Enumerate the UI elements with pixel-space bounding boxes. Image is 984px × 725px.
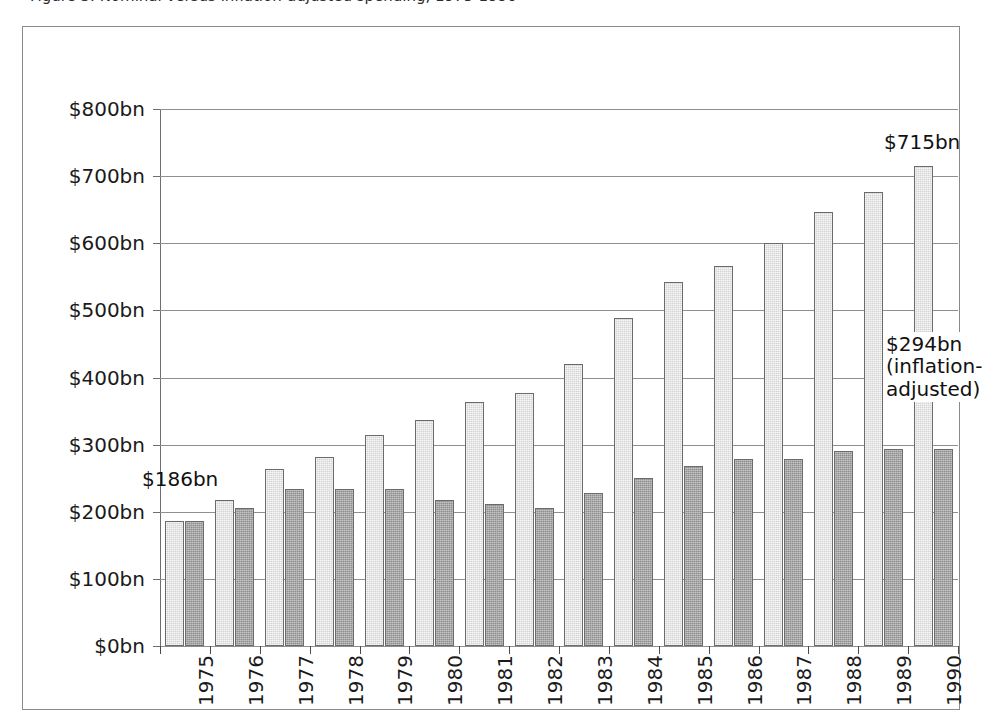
x-axis-tick-label-1982: 1982 bbox=[543, 655, 567, 706]
bar-1981-adjusted bbox=[485, 504, 504, 646]
bar-1980-nominal bbox=[415, 420, 434, 646]
bar-1990-nominal bbox=[914, 166, 933, 646]
x-axis-tick-label-1987: 1987 bbox=[792, 655, 816, 706]
bar-1986-nominal bbox=[714, 266, 733, 646]
y-axis-tick-mark bbox=[153, 176, 160, 177]
x-axis-tick-mark bbox=[459, 646, 460, 654]
bar-1979-adjusted bbox=[385, 489, 404, 646]
gridline bbox=[160, 445, 958, 446]
y-axis-tick-mark bbox=[153, 378, 160, 379]
bar-1976-adjusted bbox=[235, 508, 254, 646]
y-axis-tick-label: $200bn bbox=[69, 500, 145, 524]
figure-caption-text: Figure 3. Nominal versus inflation-adjus… bbox=[0, 0, 984, 5]
y-axis-tick-label: $500bn bbox=[69, 298, 145, 322]
x-axis-tick-mark bbox=[260, 646, 261, 654]
bar-1981-nominal bbox=[465, 402, 484, 646]
annotation-line: $715bn bbox=[884, 130, 960, 154]
bar-1986-adjusted bbox=[734, 459, 753, 646]
x-axis-tick-label-1983: 1983 bbox=[593, 655, 617, 706]
bar-1982-nominal bbox=[515, 393, 534, 646]
x-axis-tick-mark bbox=[759, 646, 760, 654]
x-axis-tick-mark bbox=[709, 646, 710, 654]
bar-1988-nominal bbox=[814, 212, 833, 646]
annotation-1990-nominal-value: $715bn bbox=[884, 131, 960, 153]
y-axis-tick-label: $300bn bbox=[69, 433, 145, 457]
bar-1976-nominal bbox=[215, 500, 234, 646]
x-axis-tick-mark bbox=[310, 646, 311, 654]
annotation-line: (inflation- bbox=[886, 355, 982, 377]
bar-1975-adjusted bbox=[185, 521, 204, 646]
figure-caption: Figure 3. Nominal versus inflation-adjus… bbox=[0, 0, 984, 5]
bar-1979-nominal bbox=[365, 435, 384, 646]
x-axis-tick-mark bbox=[360, 646, 361, 654]
x-axis-tick-label-1978: 1978 bbox=[344, 655, 368, 706]
x-axis-tick-label-1986: 1986 bbox=[743, 655, 767, 706]
y-axis-tick-mark bbox=[153, 243, 160, 244]
y-axis-tick-label: $400bn bbox=[69, 366, 145, 390]
bar-1989-adjusted bbox=[884, 449, 903, 646]
bar-1978-nominal bbox=[315, 457, 334, 646]
y-axis-tick-label: $0bn bbox=[94, 634, 145, 658]
gridline bbox=[160, 109, 958, 110]
annotation-line: adjusted) bbox=[886, 378, 982, 400]
x-axis-tick-label-1989: 1989 bbox=[892, 655, 916, 706]
x-axis-tick-mark bbox=[409, 646, 410, 654]
y-axis-tick-mark bbox=[153, 109, 160, 110]
annotation-1990-adjusted-value: $294bn(inflation-adjusted) bbox=[883, 332, 984, 402]
bar-1984-nominal bbox=[614, 318, 633, 646]
gridline bbox=[160, 176, 958, 177]
x-axis-tick-label-1980: 1980 bbox=[443, 655, 467, 706]
bar-1975-nominal bbox=[165, 521, 184, 646]
bar-1990-adjusted bbox=[934, 449, 953, 646]
gridline bbox=[160, 310, 958, 311]
y-axis-tick-mark bbox=[153, 646, 160, 647]
x-axis-tick-label-1990: 1990 bbox=[942, 655, 966, 706]
x-axis-tick-mark bbox=[659, 646, 660, 654]
bar-1988-adjusted bbox=[834, 451, 853, 646]
x-axis-tick-label-1984: 1984 bbox=[643, 655, 667, 706]
bar-1980-adjusted bbox=[435, 500, 454, 646]
bar-1984-adjusted bbox=[634, 478, 653, 646]
y-axis-tick-mark bbox=[153, 512, 160, 513]
bar-1987-adjusted bbox=[784, 459, 803, 646]
x-axis-tick-label-1981: 1981 bbox=[493, 655, 517, 706]
y-axis-tick-mark bbox=[153, 445, 160, 446]
annotation-1975-value: $186bn bbox=[142, 468, 218, 490]
bar-1977-adjusted bbox=[285, 489, 304, 646]
x-axis-tick-label-1976: 1976 bbox=[244, 655, 268, 706]
x-axis-tick-label-1975: 1975 bbox=[194, 655, 218, 706]
annotation-line: $294bn bbox=[886, 333, 982, 355]
y-axis-tick-label: $600bn bbox=[69, 231, 145, 255]
x-axis-tick-label-1977: 1977 bbox=[294, 655, 318, 706]
x-axis-tick-mark bbox=[509, 646, 510, 654]
x-axis-tick-mark bbox=[210, 646, 211, 654]
bar-1982-adjusted bbox=[535, 508, 554, 646]
bar-1983-adjusted bbox=[584, 493, 603, 646]
figure-frame: $0bn$100bn$200bn$300bn$400bn$500bn$600bn… bbox=[22, 26, 960, 710]
x-axis-tick-mark bbox=[858, 646, 859, 654]
x-axis-tick-mark bbox=[609, 646, 610, 654]
bar-1985-nominal bbox=[664, 282, 683, 646]
x-axis-tick-mark bbox=[958, 646, 959, 654]
x-axis-tick-label-1985: 1985 bbox=[693, 655, 717, 706]
y-axis-tick-label: $800bn bbox=[69, 97, 145, 121]
x-axis-tick-mark bbox=[908, 646, 909, 654]
plot-area bbox=[160, 109, 958, 646]
x-axis-tick-labels: 1975197619771978197919801981198219831984… bbox=[160, 655, 958, 725]
bar-1989-nominal bbox=[864, 192, 883, 646]
bar-1977-nominal bbox=[265, 469, 284, 646]
bar-1983-nominal bbox=[564, 364, 583, 646]
gridline bbox=[160, 243, 958, 244]
bar-1985-adjusted bbox=[684, 466, 703, 646]
x-axis-tick-label-1988: 1988 bbox=[842, 655, 866, 706]
annotation-line: $186bn bbox=[142, 467, 218, 491]
y-axis-tick-label: $100bn bbox=[69, 567, 145, 591]
x-axis-tick-mark bbox=[160, 646, 161, 654]
y-axis-tick-mark bbox=[153, 579, 160, 580]
bar-1987-nominal bbox=[764, 243, 783, 646]
bar-1978-adjusted bbox=[335, 489, 354, 646]
y-axis-tick-label: $700bn bbox=[69, 164, 145, 188]
x-axis-tick-mark bbox=[559, 646, 560, 654]
x-axis-tick-mark bbox=[808, 646, 809, 654]
y-axis-tick-labels: $0bn$100bn$200bn$300bn$400bn$500bn$600bn… bbox=[23, 109, 145, 646]
